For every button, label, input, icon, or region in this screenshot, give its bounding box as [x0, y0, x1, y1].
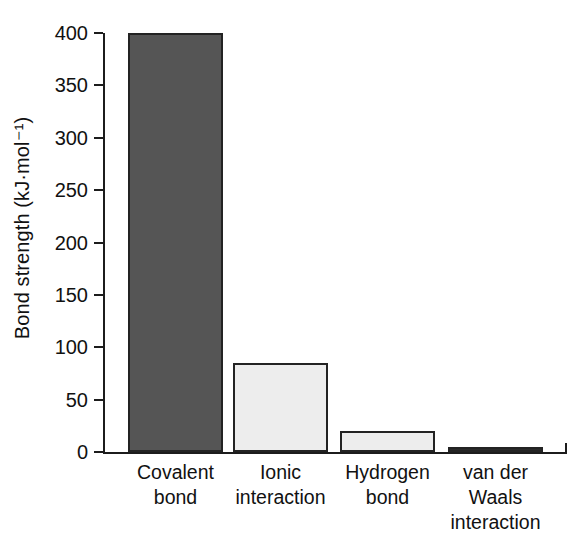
x-axis-end-tick [565, 443, 567, 453]
y-axis-tick-mark [94, 84, 103, 86]
category-label-hydrogen-bond: Hydrogenbond [326, 460, 449, 510]
y-axis-tick-mark [94, 137, 103, 139]
y-axis-tick-label: 250 [0, 180, 88, 200]
x-axis-line [103, 452, 567, 454]
category-label-line: bond [326, 485, 449, 510]
plot-area [103, 33, 565, 452]
y-axis-tick-label: 350 [0, 75, 88, 95]
y-axis-tick-label: 100 [0, 337, 88, 357]
y-axis-tick-mark [94, 189, 103, 191]
bar-van-der-waals-interaction [448, 447, 543, 452]
y-axis-tick-label: 400 [0, 23, 88, 43]
y-axis-tick-label: 300 [0, 128, 88, 148]
y-axis-tick-label: 200 [0, 233, 88, 253]
y-axis-title-text: Bond strength (kJ·mol⁻¹) [10, 116, 34, 338]
bar-ionic-interaction [233, 363, 328, 452]
y-axis-tick-label: 0 [0, 442, 88, 462]
category-label-line: van der [434, 460, 557, 485]
y-axis-tick-mark [94, 399, 103, 401]
y-axis-tick-label: 50 [0, 390, 88, 410]
category-label-ionic-interaction: Ionicinteraction [219, 460, 342, 510]
y-axis-tick-mark [94, 294, 103, 296]
y-axis-tick-mark [94, 346, 103, 348]
y-axis-tick-mark [94, 32, 103, 34]
y-axis-tick-label: 150 [0, 285, 88, 305]
category-label-line: Waals [434, 485, 557, 510]
y-axis-title: Bond strength (kJ·mol⁻¹) [0, 0, 44, 455]
y-axis-tick-mark [94, 451, 103, 453]
category-label-line: interaction [434, 510, 557, 535]
y-axis-tick-mark [94, 242, 103, 244]
category-label-line: Ionic [219, 460, 342, 485]
category-label-line: interaction [219, 485, 342, 510]
category-label-line: Hydrogen [326, 460, 449, 485]
category-label-van-der-waals-interaction: van derWaalsinteraction [434, 460, 557, 535]
bond-strength-bar-chart: Bond strength (kJ·mol⁻¹) 050100150200250… [0, 0, 584, 547]
bar-hydrogen-bond [340, 431, 435, 452]
bar-covalent-bond [128, 33, 223, 452]
